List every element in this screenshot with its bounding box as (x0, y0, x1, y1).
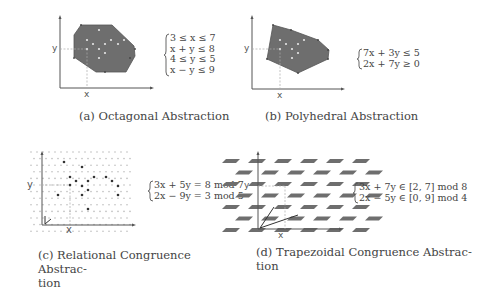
caption-text: (b) Polyhedral Abstraction (265, 109, 418, 123)
constraint-line: 7x + 3y ≤ 5 (363, 48, 420, 59)
caption-text: tion (256, 259, 472, 273)
x-axis-label: x (277, 90, 282, 100)
constraint-line: 4 ≤ y ≤ 5 (170, 54, 215, 65)
constraint-line: 2x − 5y ∈ [0, 9] mod 4 (359, 193, 467, 204)
caption-octagonal: (a) Octagonal Abstraction (79, 109, 229, 123)
caption-text: (a) Octagonal Abstraction (79, 109, 229, 123)
constraint-line: 2x + 7y ≥ 0 (363, 59, 420, 70)
constraints-trapezoidal-congruence: 3x + 7y ∈ [2, 7] mod 8 2x − 5y ∈ [0, 9] … (352, 182, 467, 203)
caption-text: (c) Relational Congruence Abstrac- (38, 248, 240, 276)
constraint-line: 2x − 9y = 3 mod 5 (154, 191, 244, 202)
panel-relational-congruence: y x 3x + 5y = 8 mod 7 2x − 9y = 3 mod 5 … (0, 145, 240, 289)
panel-octagonal: y x 3 ≤ x ≤ 7 x + y ≤ 8 4 ≤ y ≤ 5 x − y … (0, 0, 240, 145)
polyhedron-plot (240, 0, 481, 145)
caption-text: (d) Trapezoidal Congruence Abstrac- (256, 245, 472, 259)
left-brace-icon (356, 48, 364, 70)
panel-trapezoidal-congruence: y x 3x + 7y ∈ [2, 7] mod 8 2x − 5y ∈ [0,… (240, 145, 481, 289)
x-axis-label: x (66, 224, 72, 235)
constraint-line: 3 ≤ x ≤ 7 (170, 33, 215, 44)
x-axis-label: x (278, 230, 283, 240)
caption-text: tion (38, 276, 240, 289)
y-axis-label: y (27, 179, 33, 190)
constraint-line: x − y ≤ 9 (170, 65, 215, 76)
caption-trapezoidal-congruence: (d) Trapezoidal Congruence Abstrac- tion (256, 245, 472, 273)
left-brace-icon (147, 180, 155, 202)
caption-polyhedral: (b) Polyhedral Abstraction (265, 109, 418, 123)
constraints-polyhedral: 7x + 3y ≤ 5 2x + 7y ≥ 0 (356, 48, 420, 69)
y-axis-label: y (244, 180, 249, 190)
caption-relational-congruence: (c) Relational Congruence Abstrac- tion (38, 248, 240, 289)
x-axis-label: x (84, 89, 89, 99)
y-axis-label: y (244, 43, 249, 53)
constraint-line: 3x + 7y ∈ [2, 7] mod 8 (359, 182, 467, 193)
panel-polyhedral: y x 7x + 3y ≤ 5 2x + 7y ≥ 0 (b) Polyhedr… (240, 0, 481, 145)
left-brace-icon (163, 33, 171, 77)
constraints-octagonal: 3 ≤ x ≤ 7 x + y ≤ 8 4 ≤ y ≤ 5 x − y ≤ 9 (163, 33, 215, 75)
y-axis-label: y (52, 43, 57, 53)
left-brace-icon (352, 182, 360, 204)
